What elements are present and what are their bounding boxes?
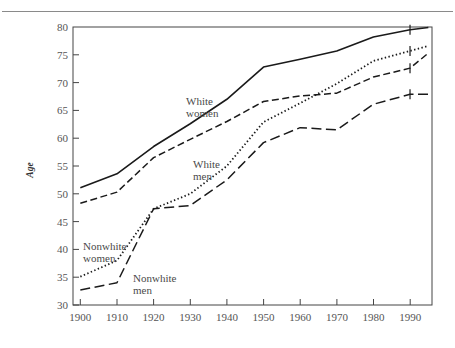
x-tick-label-1920: 1920 — [143, 311, 166, 323]
y-axis-title: Age — [25, 162, 35, 179]
y-tick-label: 45 — [57, 216, 69, 228]
y-tick-label: 50 — [57, 188, 69, 200]
y-tick-label-45: 45 — [57, 216, 69, 228]
y-tick-label: 70 — [57, 77, 69, 89]
y-tick-label-30: 30 — [57, 299, 69, 311]
x-tick-label-1970: 1970 — [326, 311, 349, 323]
y-tick-label-65: 65 — [57, 104, 69, 116]
y-tick-label: 80 — [57, 21, 69, 33]
series-label-nonwhite-men-line2: men — [133, 284, 152, 296]
y-axis-ticks — [73, 55, 79, 305]
y-tick-label: 30 — [57, 299, 69, 311]
series-label-white-men-line2: men — [193, 170, 212, 182]
x-tick-label-1910: 1910 — [106, 311, 129, 323]
series-line-nonwhite-men — [80, 94, 428, 290]
series-label-nonwhite-men: Nonwhite men — [133, 272, 177, 296]
x-tick-label-1990: 1990 — [399, 311, 422, 323]
x-tick-label-1940: 1940 — [216, 311, 239, 323]
series-label-white-women: White women — [186, 95, 219, 119]
y-tick-label-55: 55 — [57, 160, 69, 172]
x-tick-label-1960: 1960 — [289, 311, 312, 323]
series-label-white-women-line1: White — [186, 95, 213, 107]
figure-container: 30 35 40 45 50 55 60 65 70 75 80 — [0, 0, 455, 348]
y-tick-label-35: 35 — [57, 271, 69, 283]
series-line-white-women — [80, 28, 428, 188]
x-axis-ticks — [80, 299, 410, 305]
series-label-nonwhite-women-line1: Nonwhite — [83, 240, 127, 252]
y-tick-label-75: 75 — [57, 49, 69, 61]
series-label-nonwhite-men-line1: Nonwhite — [133, 272, 177, 284]
y-tick-label: 35 — [57, 271, 69, 283]
y-tick-label: 55 — [57, 160, 69, 172]
y-tick-label: 40 — [57, 243, 69, 255]
y-tick-label-50: 50 — [57, 188, 69, 200]
life-expectancy-line-chart: 30 35 40 45 50 55 60 65 70 75 80 — [0, 0, 455, 348]
x-tick-label-1950: 1950 — [253, 311, 276, 323]
series-label-white-women-line2: women — [186, 107, 219, 119]
x-tick-label-1930: 1930 — [179, 311, 202, 323]
series-label-white-men-line1: White — [193, 158, 220, 170]
y-tick-label-80: 80 — [57, 21, 69, 33]
y-tick-label-40: 40 — [57, 243, 69, 255]
x-tick-label-1900: 1900 — [69, 311, 92, 323]
series-label-nonwhite-women: Nonwhite women — [83, 240, 127, 264]
y-tick-label-70: 70 — [57, 77, 69, 89]
x-tick-label-1980: 1980 — [363, 311, 386, 323]
y-tick-label: 65 — [57, 104, 69, 116]
y-tick-label-60: 60 — [57, 132, 69, 144]
y-tick-label: 60 — [57, 132, 69, 144]
series-label-white-men: White men — [193, 158, 220, 182]
y-tick-label: 75 — [57, 49, 69, 61]
series-label-nonwhite-women-line2: women — [83, 252, 116, 264]
